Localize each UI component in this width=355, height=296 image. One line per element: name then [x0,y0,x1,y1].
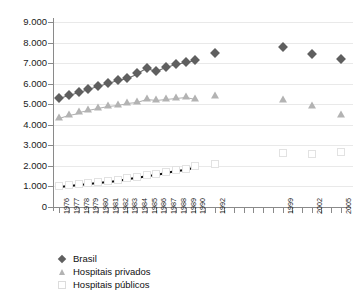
square-marker-icon-glyph [58,281,66,289]
data-point-brasil [113,75,123,85]
data-point-hospitais-publicos [182,165,190,173]
square-marker-icon [56,281,68,289]
legend-item-label: Hospitais públicos [73,279,150,290]
data-point-hospitais-publicos [104,177,112,185]
data-point-hospitais-publicos [172,166,180,174]
data-point-hospitais-privados [337,110,345,117]
data-point-hospitais-publicos [75,180,83,188]
data-point-hospitais-privados [75,108,83,115]
data-point-hospitais-privados [143,95,151,102]
data-point-hospitais-publicos [114,176,122,184]
data-point-hospitais-publicos [94,178,102,186]
y-axis-tick [48,166,53,167]
x-axis-tick [234,208,235,213]
data-point-hospitais-publicos [55,182,63,190]
legend-item-label: Brasil [73,253,97,264]
y-axis-tick-label: 4.000 [3,120,47,129]
data-point-hospitais-publicos [123,174,131,182]
data-point-hospitais-privados [162,95,170,102]
data-point-hospitais-privados [65,110,73,117]
data-point-hospitais-publicos [84,179,92,187]
data-point-hospitais-privados [152,96,160,103]
data-point-hospitais-publicos [191,162,199,170]
y-axis-tick [48,22,53,23]
data-point-brasil [171,59,181,69]
data-point-hospitais-publicos [65,181,73,189]
data-point-hospitais-privados [55,113,63,120]
x-axis-tick [283,208,284,213]
y-axis-tick [48,43,53,44]
data-point-brasil [161,62,171,72]
data-point-brasil [307,49,317,59]
data-point-hospitais-privados [133,98,141,105]
y-axis-tick-label: 9.000 [3,17,47,26]
triangle-marker-icon [56,269,68,275]
data-point-brasil [103,78,113,88]
x-axis-tick [302,208,303,213]
data-point-hospitais-publicos [133,173,141,181]
data-point-brasil [181,57,191,67]
data-point-brasil [93,81,103,91]
y-axis-tick [48,125,53,126]
data-point-hospitais-publicos [308,150,316,158]
y-axis-tick-label: 2.000 [3,161,47,170]
x-axis-tick [341,208,342,213]
x-axis-tick [331,208,332,213]
data-point-brasil [278,42,288,52]
y-axis-tick-label: 3.000 [3,140,47,149]
diamond-marker-icon [56,256,68,262]
y-axis-tick-label: 8.000 [3,38,47,47]
data-point-hospitais-privados [279,96,287,103]
data-point-brasil [210,48,220,58]
x-axis-tick [244,208,245,213]
x-axis-tick [273,208,274,213]
data-point-brasil [336,54,346,64]
x-axis-tick [215,208,216,213]
data-point-hospitais-publicos [143,171,151,179]
data-point-brasil [190,55,200,65]
diamond-marker-icon-glyph [58,254,66,262]
y-axis-tick-label: 0 [3,202,47,211]
triangle-marker-icon-glyph [59,269,65,275]
data-point-hospitais-privados [211,92,219,99]
x-axis-tick [312,208,313,213]
y-axis-tick [48,186,53,187]
legend-item-brasil[interactable]: Brasil [56,252,151,265]
data-point-brasil [151,66,161,76]
data-point-hospitais-publicos [279,149,287,157]
data-point-hospitais-privados [308,102,316,109]
x-axis-tick [253,208,254,213]
y-axis-tick [48,63,53,64]
legend-item-label: Hospitais privados [73,266,151,277]
data-point-hospitais-privados [172,94,180,101]
y-axis-tick [48,104,53,105]
data-point-hospitais-privados [94,104,102,111]
data-point-hospitais-privados [191,95,199,102]
data-point-hospitais-publicos [152,170,160,178]
x-axis-tick [59,208,60,213]
data-point-brasil [142,63,152,73]
data-point-hospitais-privados [104,102,112,109]
legend-item-hospitais-privados[interactable]: Hospitais privados [56,265,151,278]
x-axis-tick [263,208,264,213]
data-point-hospitais-privados [182,93,190,100]
y-axis-tick [48,207,53,208]
chart-legend: BrasilHospitais privadosHospitais públic… [56,252,151,291]
data-point-hospitais-publicos [211,160,219,168]
data-point-hospitais-privados [114,101,122,108]
chart-figure: 9.0008.0007.0006.0005.0004.0003.0002.000… [0,0,355,296]
data-point-hospitais-privados [123,99,131,106]
data-point-hospitais-privados [84,106,92,113]
y-axis-tick-label: 1.000 [3,181,47,190]
data-point-hospitais-publicos [337,148,345,156]
legend-item-hospitais-publicos[interactable]: Hospitais públicos [56,278,151,291]
y-axis-tick-label: 7.000 [3,58,47,67]
y-axis-tick [48,145,53,146]
y-axis-tick [48,84,53,85]
plot-area [54,22,351,207]
data-point-brasil [64,90,74,100]
data-point-brasil [122,73,132,83]
data-point-hospitais-publicos [162,168,170,176]
y-axis-tick-label: 5.000 [3,99,47,108]
y-axis-tick-label: 6.000 [3,79,47,88]
